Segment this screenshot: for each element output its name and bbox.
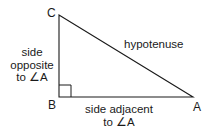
opposite-label-line3: to ∠A (8, 71, 56, 84)
vertex-label-a: A (193, 101, 201, 114)
adjacent-side-label: side adjacent to ∠A (80, 103, 158, 128)
right-angle-marker (59, 85, 71, 97)
adjacent-label-line1: side adjacent (80, 103, 158, 116)
vertex-label-b: B (48, 99, 56, 112)
adjacent-label-line2: to ∠A (80, 116, 158, 129)
vertex-label-c: C (47, 7, 56, 20)
right-triangle-diagram: C B A hypotenuse side opposite to ∠A sid… (0, 0, 212, 134)
opposite-label-line2: opposite (8, 59, 56, 72)
triangle-shape (59, 15, 193, 97)
opposite-side-label: side opposite to ∠A (8, 46, 56, 84)
opposite-label-line1: side (8, 46, 56, 59)
hypotenuse-label: hypotenuse (124, 38, 183, 51)
